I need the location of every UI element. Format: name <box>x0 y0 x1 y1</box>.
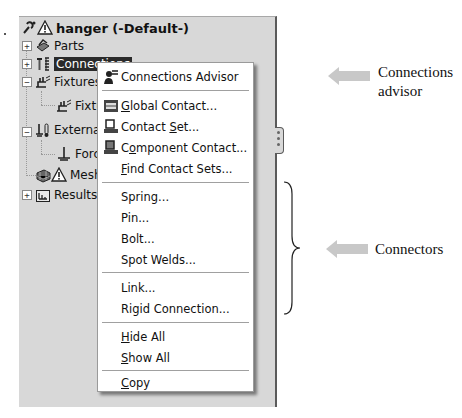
expand-parts-toggle[interactable]: + <box>22 41 32 51</box>
menu-separator <box>102 90 249 92</box>
fixtures-icon <box>35 74 51 90</box>
menu-item-label: Spring... <box>121 190 169 204</box>
menu-item-label: Hide All <box>121 330 165 344</box>
menu-item-label: Pin... <box>121 211 149 225</box>
menu-item-hide-all[interactable]: Hide All <box>98 326 253 347</box>
menu-item-label: Component Contact... <box>121 141 247 155</box>
menu-separator <box>102 322 249 324</box>
tree-item-mesh[interactable]: Mesh <box>35 166 102 184</box>
menu-item-link[interactable]: Link... <box>98 277 253 298</box>
menu-item-spot-welds[interactable]: Spot Welds... <box>98 249 253 270</box>
connections-context-menu: Connections Advisor Global Contact... Co… <box>97 62 254 392</box>
menu-item-global-contact[interactable]: Global Contact... <box>98 95 253 116</box>
annotation-line: advisor <box>378 82 453 101</box>
component-contact-icon <box>103 140 119 156</box>
force-icon <box>56 146 72 162</box>
results-folder-icon <box>35 187 51 203</box>
menu-item-label: Bolt... <box>121 232 155 246</box>
study-icon <box>21 20 37 36</box>
tree-root[interactable]: hanger (-Default-) <box>21 19 189 37</box>
menu-item-spring[interactable]: Spring... <box>98 186 253 207</box>
menu-item-find-contact-sets[interactable]: Find Contact Sets... <box>98 158 253 179</box>
menu-item-copy[interactable]: Copy <box>98 372 253 393</box>
annotation-line: Connections <box>378 63 453 82</box>
tree-item-fixtures[interactable]: Fixtures <box>35 73 101 91</box>
menu-separator <box>102 182 249 184</box>
connections-advisor-icon <box>103 69 119 85</box>
stray-dot <box>4 33 6 35</box>
menu-separator <box>102 272 249 274</box>
menu-item-rigid-connection[interactable]: Rigid Connection... <box>98 298 253 319</box>
menu-item-label: Rigid Connection... <box>121 302 230 316</box>
menu-item-label: Global Contact... <box>121 99 217 113</box>
connections-icon <box>35 56 51 72</box>
menu-item-show-all[interactable]: Show All <box>98 347 253 368</box>
menu-item-label: Link... <box>121 281 156 295</box>
menu-item-label: Connections Advisor <box>121 70 238 84</box>
warning-icon <box>51 167 67 183</box>
annotation-arrow-icon <box>326 240 368 258</box>
panel-splitter-handle[interactable] <box>275 127 284 154</box>
annotation-connections-advisor: Connections advisor <box>378 63 453 101</box>
collapse-fixtures-toggle[interactable]: − <box>22 77 32 87</box>
collapse-external-loads-toggle[interactable]: − <box>22 127 32 137</box>
menu-item-component-contact[interactable]: Component Contact... <box>98 137 253 158</box>
tree-line <box>41 140 42 154</box>
external-loads-icon <box>35 122 51 138</box>
fixture-icon <box>56 98 72 114</box>
tree-item-label: Parts <box>54 39 84 53</box>
expand-results-toggle[interactable]: + <box>22 190 32 200</box>
global-contact-icon <box>103 98 119 114</box>
menu-item-connections-advisor[interactable]: Connections Advisor <box>98 66 253 87</box>
menu-item-label: Show All <box>121 351 170 365</box>
warning-icon <box>37 20 53 36</box>
tree-root-label: hanger (-Default-) <box>56 21 189 36</box>
parts-icon <box>35 38 51 54</box>
annotation-connectors: Connectors <box>375 240 443 259</box>
mesh-icon <box>35 167 51 183</box>
connectors-brace-icon <box>282 180 302 316</box>
tree-item-parts[interactable]: Parts <box>35 37 84 55</box>
tree-item-label: Fixtures <box>54 75 101 89</box>
tree-line <box>41 154 55 155</box>
menu-item-label: Spot Welds... <box>121 253 196 267</box>
contact-set-icon <box>103 119 119 135</box>
annotation-arrow-icon <box>328 67 370 85</box>
menu-item-label: Find Contact Sets... <box>121 162 232 176</box>
expand-connections-toggle[interactable]: + <box>22 59 32 69</box>
menu-item-contact-set[interactable]: Contact Set... <box>98 116 253 137</box>
menu-item-pin[interactable]: Pin... <box>98 207 253 228</box>
tree-line <box>41 105 55 106</box>
tree-item-label: Results <box>54 188 97 202</box>
tree-line <box>41 91 42 105</box>
menu-item-label: Copy <box>121 376 150 390</box>
menu-item-bolt[interactable]: Bolt... <box>98 228 253 249</box>
tree-item-results[interactable]: Results <box>35 186 97 204</box>
menu-item-label: Contact Set... <box>121 120 199 134</box>
